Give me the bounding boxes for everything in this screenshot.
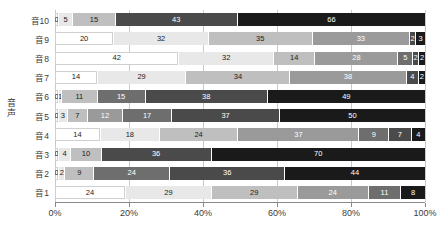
bar-segment[interactable]: 14 xyxy=(55,128,101,141)
bar-segment-value: 44 xyxy=(351,169,359,177)
stacked-bar-音1: 24292924118 xyxy=(55,186,425,199)
bar-segment[interactable]: 38 xyxy=(290,71,406,84)
bar-segment-value: 11 xyxy=(75,93,83,101)
bar-row: 029243644 xyxy=(55,164,425,183)
bar-segment[interactable]: 2 xyxy=(419,52,425,65)
bar-segment[interactable]: 33 xyxy=(313,32,411,45)
bar-row: 42321428522 xyxy=(55,48,425,67)
plot-area: 0515436620323533234232142852214293438420… xyxy=(55,10,425,202)
bar-segment[interactable]: 42 xyxy=(55,52,179,65)
bar-segment[interactable]: 4 xyxy=(407,71,419,84)
bar-segment[interactable]: 18 xyxy=(101,128,160,141)
bar-segment[interactable]: 15 xyxy=(98,90,146,103)
bar-segment[interactable]: 11 xyxy=(369,186,402,199)
bar-segment[interactable]: 34 xyxy=(186,71,290,84)
bar-row: 05154366 xyxy=(55,10,425,29)
stacked-bar-音10: 05154366 xyxy=(55,13,425,26)
bar-segment[interactable]: 37 xyxy=(238,128,359,141)
x-tick-60 xyxy=(277,203,278,207)
bar-segment[interactable]: 5 xyxy=(398,52,413,65)
y-axis-label-音2: 音2 xyxy=(18,164,52,183)
bar-segment-value: 9 xyxy=(372,131,376,139)
bar-row: 14182437974 xyxy=(55,125,425,144)
bar-row: 2032353323 xyxy=(55,29,425,48)
bar-segment-value: 4 xyxy=(63,150,67,158)
bar-segment[interactable]: 4 xyxy=(412,128,425,141)
x-tick-label-20: 20% xyxy=(120,208,138,218)
bar-segment[interactable]: 29 xyxy=(126,186,212,199)
bar-segment[interactable]: 24 xyxy=(298,186,369,199)
bar-segment[interactable]: 20 xyxy=(55,32,114,45)
bar-row: 24292924118 xyxy=(55,183,425,202)
bar-segment[interactable]: 5 xyxy=(59,13,73,26)
bar-rows: 0515436620323533234232142852214293438420… xyxy=(55,10,425,202)
bar-segment[interactable]: 29 xyxy=(212,186,298,199)
bar-segment-value: 11 xyxy=(381,189,389,197)
bar-segment[interactable]: 12 xyxy=(88,109,123,122)
bar-segment[interactable]: 70 xyxy=(212,148,425,161)
bar-segment[interactable]: 66 xyxy=(238,13,425,26)
bar-segment[interactable]: 3 xyxy=(59,109,68,122)
bar-segment[interactable]: 43 xyxy=(116,13,238,26)
stacked-bar-音3: 04103670 xyxy=(55,148,425,161)
bar-segment[interactable]: 14 xyxy=(55,71,98,84)
bar-segment[interactable]: 44 xyxy=(285,167,425,180)
bar-segment[interactable]: 9 xyxy=(65,167,94,180)
bar-segment-value: 3 xyxy=(418,35,422,43)
bar-segment-value: 7 xyxy=(398,131,402,139)
bar-segment[interactable]: 32 xyxy=(179,52,274,65)
bar-segment[interactable]: 36 xyxy=(170,167,285,180)
bar-segment-value: 32 xyxy=(157,35,165,43)
bar-segment[interactable]: 35 xyxy=(209,32,313,45)
x-tick-40 xyxy=(203,203,204,207)
bar-segment-value: 18 xyxy=(126,131,134,139)
bar-segment-value: 29 xyxy=(137,73,145,81)
bar-segment[interactable]: 2 xyxy=(419,71,425,84)
bar-segment-value: 8 xyxy=(411,189,415,197)
bar-segment[interactable]: 10 xyxy=(71,148,102,161)
bar-segment[interactable]: 36 xyxy=(102,148,212,161)
bar-segment[interactable]: 24 xyxy=(160,128,239,141)
bar-segment[interactable]: 9 xyxy=(359,128,388,141)
x-tick-label-60: 60% xyxy=(268,208,286,218)
stacked-bar-音2: 029243644 xyxy=(55,167,425,180)
bar-segment-value: 24 xyxy=(329,189,337,197)
bar-segment[interactable]: 11 xyxy=(62,90,97,103)
bar-segment-value: 2 xyxy=(60,169,64,177)
bar-segment[interactable]: 14 xyxy=(274,52,315,65)
x-tick-label-80: 80% xyxy=(342,208,360,218)
bar-segment-value: 36 xyxy=(223,169,231,177)
bar-segment-value: 42 xyxy=(112,54,120,62)
bar-segment-value: 50 xyxy=(348,112,356,120)
bar-segment[interactable]: 37 xyxy=(172,109,279,122)
bar-segment-value: 43 xyxy=(172,16,180,24)
bar-segment[interactable]: 24 xyxy=(94,167,170,180)
bar-segment[interactable]: 8 xyxy=(401,186,425,199)
y-axis-label-音3: 音3 xyxy=(18,144,52,163)
bar-segment-value: 12 xyxy=(101,112,109,120)
bar-segment-value: 14 xyxy=(290,54,298,62)
bar-segment-value: 70 xyxy=(314,150,322,158)
bar-segment[interactable]: 49 xyxy=(268,90,425,103)
bar-segment[interactable]: 7 xyxy=(68,109,88,122)
bar-segment-value: 10 xyxy=(82,150,90,158)
bar-segment[interactable]: 28 xyxy=(315,52,398,65)
bar-segment-value: 7 xyxy=(75,112,79,120)
bar-segment[interactable]: 29 xyxy=(98,71,187,84)
bar-segment-value: 24 xyxy=(86,189,94,197)
bar-segment[interactable]: 50 xyxy=(280,109,425,122)
bar-segment-value: 2 xyxy=(420,73,424,81)
bar-segment-value: 5 xyxy=(403,54,407,62)
bar-segment[interactable]: 15 xyxy=(73,13,116,26)
bar-segment-value: 9 xyxy=(77,169,81,177)
bar-segment[interactable]: 32 xyxy=(114,32,209,45)
bar-segment[interactable]: 24 xyxy=(55,186,126,199)
bar-segment[interactable]: 17 xyxy=(123,109,172,122)
bar-segment-value: 66 xyxy=(327,16,335,24)
y-axis-label-音6: 音6 xyxy=(18,87,52,106)
bar-segment[interactable]: 38 xyxy=(146,90,268,103)
bar-segment[interactable]: 3 xyxy=(416,32,425,45)
bar-segment[interactable]: 4 xyxy=(59,148,71,161)
bar-segment[interactable]: 7 xyxy=(389,128,412,141)
bar-segment-value: 34 xyxy=(234,73,242,81)
